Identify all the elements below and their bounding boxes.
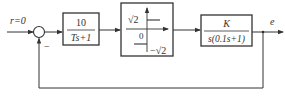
relay-lower-label: −√2 (150, 45, 166, 56)
block1-denominator: Ts+1 (71, 32, 91, 43)
relay-block: √2 0 −√2 (121, 3, 173, 56)
block1-numerator: 10 (76, 17, 86, 28)
summing-junction: − (34, 27, 51, 53)
first-order-block: 10 Ts+1 (63, 13, 99, 45)
relay-upper-label: √2 (128, 14, 139, 25)
input-label: r=0 (10, 15, 26, 26)
plant-denominator: s(0.1s+1) (208, 34, 245, 45)
plant-numerator: K (222, 18, 231, 29)
feedback-sign: − (44, 41, 50, 52)
relay-origin-label: 0 (139, 31, 144, 41)
block-diagram: r=0 − 10 Ts+1 √2 0 −√2 K s(0.1s+1) (0, 0, 285, 96)
plant-block: K s(0.1s+1) (201, 15, 252, 46)
output-signal: e (252, 16, 283, 33)
input-signal: r=0 (7, 15, 33, 32)
output-label: e (270, 16, 275, 27)
